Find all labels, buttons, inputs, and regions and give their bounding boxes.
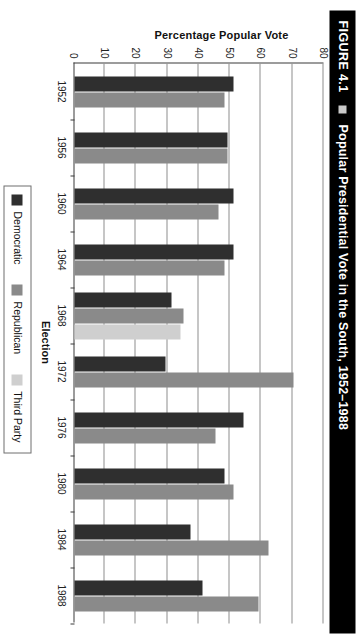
chart-container: Percentage Popular Vote 8070605040302010… <box>9 10 323 633</box>
bar-democratic-1968 <box>74 292 171 307</box>
x-axis-tick <box>70 511 74 512</box>
bar-republican-1960 <box>74 204 218 219</box>
y-axis-tick-label: 20 <box>130 47 141 58</box>
bar-democratic-1988 <box>74 580 202 595</box>
bar-democratic-1976 <box>74 412 243 427</box>
bar-democratic-1956 <box>74 132 227 147</box>
x-axis-tick <box>70 567 74 568</box>
gridline <box>291 63 292 623</box>
x-axis-tick-label: 1968 <box>55 304 66 326</box>
gridline <box>228 63 229 623</box>
legend-swatch-icon <box>12 194 23 205</box>
y-axis-tick-labels: 80706050403020100 <box>73 24 323 58</box>
y-axis-tick-label: 10 <box>99 47 110 58</box>
bar-democratic-1964 <box>74 244 233 259</box>
bar-republican-1956 <box>74 148 227 163</box>
legend-item: Republican <box>11 284 23 354</box>
bar-republican-1972 <box>74 372 293 387</box>
bar-republican-1964 <box>74 260 224 275</box>
chart-legend: DemocraticRepublicanThird Party <box>3 185 31 453</box>
x-axis-tick-label: 1988 <box>55 584 66 606</box>
bar-republican-1968 <box>74 308 183 323</box>
bar-republican-1976 <box>74 428 215 443</box>
bar-democratic-1952 <box>74 76 233 91</box>
y-axis-tick-label: 0 <box>68 52 79 58</box>
gridline <box>135 63 136 623</box>
legend-label: Democratic <box>11 211 23 264</box>
square-bullet-icon <box>339 105 347 113</box>
gridline <box>166 63 167 623</box>
y-axis-tick-label: 30 <box>161 47 172 58</box>
y-axis-tick-label: 50 <box>224 47 235 58</box>
figure-title: Popular Presidential Vote in the South, … <box>335 124 349 430</box>
bar-democratic-1984 <box>74 524 190 539</box>
x-axis-tick-label: 1980 <box>55 472 66 494</box>
bar-republican-1984 <box>74 540 268 555</box>
bar-republican-1952 <box>74 92 224 107</box>
y-axis-tick-label: 80 <box>318 47 329 58</box>
legend-item: Third Party <box>11 374 23 442</box>
x-axis-tick-label: 1972 <box>55 360 66 382</box>
bar-republican-1988 <box>74 596 258 611</box>
bar-republican-1980 <box>74 484 233 499</box>
x-axis-tick-label: 1984 <box>55 528 66 550</box>
x-axis-tick <box>70 623 74 624</box>
x-axis-tick-label: 1952 <box>55 80 66 102</box>
gridline <box>322 63 323 623</box>
bar-democratic-1980 <box>74 468 224 483</box>
bar-democratic-1972 <box>74 356 165 371</box>
figure-canvas: FIGURE 4.1 Popular Presidential Vote in … <box>0 0 363 643</box>
legend-label: Republican <box>11 301 23 354</box>
x-axis-tick-label: 1964 <box>55 248 66 270</box>
y-axis-tick-label: 70 <box>286 47 297 58</box>
bar-third-party-1968 <box>74 324 180 339</box>
legend-item: Democratic <box>11 194 23 264</box>
x-axis-tick <box>70 287 74 288</box>
x-axis-tick <box>70 399 74 400</box>
legend-swatch-icon <box>12 284 23 295</box>
x-axis-tick-label: 1956 <box>55 136 66 158</box>
gridline <box>197 63 198 623</box>
x-axis-tick <box>70 343 74 344</box>
x-axis-tick-label: 1960 <box>55 192 66 214</box>
gridline <box>260 63 261 623</box>
x-axis-tick <box>70 175 74 176</box>
bar-democratic-1960 <box>74 188 233 203</box>
y-axis-tick-label: 40 <box>193 47 204 58</box>
figure-title-banner: FIGURE 4.1 Popular Presidential Vote in … <box>329 10 355 633</box>
x-axis-title: Election <box>39 62 51 622</box>
legend-label: Third Party <box>11 391 23 442</box>
x-axis-tick <box>70 119 74 120</box>
x-axis-tick-label: 1976 <box>55 416 66 438</box>
y-axis-tick-label: 60 <box>255 47 266 58</box>
x-axis-tick <box>70 231 74 232</box>
plot-area: 1952195619601964196819721976198019841988 <box>73 62 323 622</box>
legend-swatch-icon <box>12 374 23 385</box>
gridline <box>103 63 104 623</box>
x-axis-tick <box>70 455 74 456</box>
